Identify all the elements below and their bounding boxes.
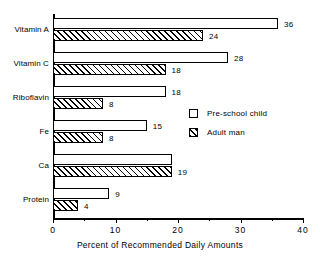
bar-pre-school-child	[53, 188, 109, 199]
bar-adult-man	[53, 30, 203, 41]
bar-pre-school-child	[53, 52, 228, 63]
bar-row: 19	[53, 166, 303, 177]
bar-pre-school-child	[53, 86, 166, 97]
bar-value-label: 36	[284, 19, 294, 28]
legend-label: Pre-school child	[207, 109, 267, 118]
bar-row	[53, 154, 303, 165]
bar-adult-man	[53, 98, 103, 109]
bar-value-label: 19	[178, 167, 188, 176]
legend-swatch-adult-man	[189, 128, 198, 137]
legend-swatch-pre-school-child	[189, 109, 198, 118]
bar-adult-man	[53, 132, 103, 143]
bar-row: 36	[53, 18, 303, 29]
bar-pre-school-child	[53, 18, 278, 29]
bar-value-label: 24	[209, 31, 219, 40]
category-label-protein: Protein	[1, 195, 49, 204]
bar-group: 3624	[53, 18, 303, 42]
category-label-ca: Ca	[1, 161, 49, 170]
category-label-vitamin-c: Vitamin C	[1, 59, 49, 68]
bar-value-label: 15	[153, 121, 163, 130]
bar-chart: Vitamin AVitamin CRiboflavinFeCaProtein …	[0, 0, 320, 261]
bar-group: 2818	[53, 52, 303, 76]
x-tick-label: 20	[172, 225, 183, 235]
bar-value-label: 28	[234, 53, 244, 62]
bar-value-label: 8	[109, 99, 114, 108]
legend-item: Pre-school child	[189, 106, 267, 120]
bar-group: 19	[53, 154, 303, 178]
category-axis-labels: Vitamin AVitamin CRiboflavinFeCaProtein	[0, 14, 49, 218]
x-tick-major	[178, 218, 179, 223]
chart-legend: Pre-school childAdult man	[189, 106, 267, 144]
x-tick-minor	[209, 218, 210, 221]
bar-row: 9	[53, 188, 303, 199]
bar-value-label: 4	[84, 201, 89, 210]
x-tick-major	[303, 218, 304, 223]
category-label-riboflavin: Riboflavin	[1, 93, 49, 102]
x-tick-minor	[272, 218, 273, 221]
bar-row: 4	[53, 200, 303, 211]
bar-adult-man	[53, 166, 172, 177]
bar-row: 18	[53, 86, 303, 97]
legend-item: Adult man	[189, 125, 267, 139]
x-tick-label: 30	[235, 225, 246, 235]
bar-pre-school-child	[53, 154, 172, 165]
bar-value-label: 18	[172, 65, 182, 74]
bar-value-label: 8	[109, 133, 114, 142]
x-tick-major	[241, 218, 242, 223]
category-label-vitamin-a: Vitamin A	[1, 25, 49, 34]
bar-pre-school-child	[53, 120, 147, 131]
category-label-fe: Fe	[1, 127, 49, 136]
x-tick-label: 40	[297, 225, 308, 235]
bar-row: 28	[53, 52, 303, 63]
x-tick-major	[116, 218, 117, 223]
x-tick-major	[53, 218, 54, 223]
legend-label: Adult man	[207, 128, 245, 137]
bar-value-label: 9	[115, 189, 120, 198]
x-tick-label: 10	[110, 225, 121, 235]
x-tick-minor	[147, 218, 148, 221]
bar-group: 94	[53, 188, 303, 212]
bar-adult-man	[53, 64, 166, 75]
bar-value-label: 18	[172, 87, 182, 96]
bar-row: 24	[53, 30, 303, 41]
bar-adult-man	[53, 200, 78, 211]
bar-row: 18	[53, 64, 303, 75]
x-axis-title: Percent of Recommended Daily Amounts	[0, 240, 320, 250]
x-tick-label: 0	[50, 225, 56, 235]
x-tick-minor	[84, 218, 85, 221]
